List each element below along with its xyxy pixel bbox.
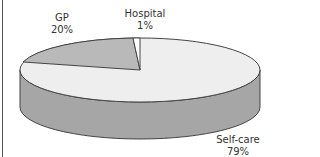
self-care-label: Self-care 79%: [208, 134, 268, 157]
gp-label-pct: 20%: [42, 24, 82, 36]
gp-label: GP 20%: [42, 12, 82, 36]
self-care-label-pct: 79%: [208, 146, 268, 157]
self-care-label-name: Self-care: [208, 134, 268, 146]
hospital-label-name: Hospital: [115, 8, 175, 20]
hospital-label: Hospital 1%: [115, 8, 175, 32]
hospital-label-pct: 1%: [115, 20, 175, 32]
gp-label-name: GP: [42, 12, 82, 24]
